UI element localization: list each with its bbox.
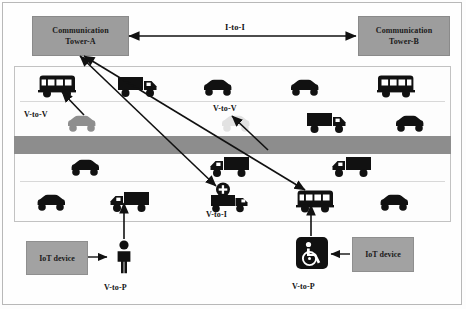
- truck-icon[interactable]: [117, 74, 161, 98]
- label-v-to-p-right: V-to-P: [292, 282, 315, 291]
- iot-device-right-label: IoT device: [365, 250, 401, 259]
- car-icon[interactable]: [374, 192, 414, 212]
- communication-tower-b[interactable]: Communication Tower-B: [358, 16, 450, 56]
- car-icon[interactable]: [390, 113, 430, 133]
- iot-device-right[interactable]: IoT device: [352, 237, 414, 272]
- label-v-to-v-left: V-to-V: [24, 110, 48, 119]
- iot-device-left[interactable]: IoT device: [26, 241, 88, 275]
- truck-icon[interactable]: [206, 154, 250, 178]
- wheelchair-icon[interactable]: [296, 237, 328, 269]
- label-v-to-p-left: V-to-P: [104, 283, 127, 292]
- car-icon[interactable]: [198, 77, 238, 97]
- pedestrian-icon[interactable]: [111, 240, 137, 274]
- tower-a-line1: Communication: [52, 25, 108, 36]
- car-icon[interactable]: [216, 113, 256, 133]
- truck-icon[interactable]: [328, 154, 372, 178]
- truck-icon[interactable]: [106, 189, 150, 213]
- car-icon[interactable]: [65, 157, 105, 177]
- car-icon[interactable]: [31, 192, 71, 212]
- car-icon[interactable]: [62, 113, 102, 133]
- car-icon[interactable]: [285, 77, 325, 97]
- tower-a-line2: Tower-A: [52, 36, 108, 47]
- iot-device-left-label: IoT device: [39, 254, 75, 263]
- bus-icon[interactable]: [294, 189, 336, 213]
- diagram-canvas: Communication Tower-A Communication Towe…: [0, 0, 466, 309]
- label-v-to-i: V-to-I: [206, 210, 227, 219]
- tower-b-line2: Tower-B: [376, 36, 432, 47]
- tower-b-line1: Communication: [376, 25, 432, 36]
- lane-separator-top: [20, 101, 445, 102]
- communication-tower-a[interactable]: Communication Tower-A: [32, 16, 129, 56]
- bus-icon[interactable]: [36, 74, 78, 98]
- bus-icon[interactable]: [375, 74, 417, 98]
- label-i-to-i: I-to-I: [225, 22, 245, 32]
- road-median-divider: [14, 136, 451, 154]
- truck-icon[interactable]: [306, 110, 350, 134]
- label-v-to-v-mid: V-to-V: [213, 104, 237, 113]
